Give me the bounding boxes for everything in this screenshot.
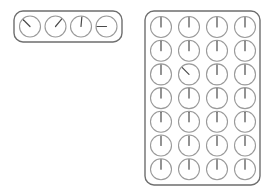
grid-dial-r7c3[interactable]: grid dial r7c3 <box>207 159 228 180</box>
dial-3[interactable]: dial 3 <box>71 16 92 37</box>
grid-dial-r3c4[interactable]: grid dial r3c4 <box>235 64 256 85</box>
grid-dial-r6c1[interactable]: grid dial r6c1 <box>151 135 172 156</box>
grid-dial-r3c1[interactable]: grid dial r3c1 <box>151 64 172 85</box>
grid-dial-r7c4[interactable]: grid dial r7c4 <box>235 159 256 180</box>
grid-dial-r4c1[interactable]: grid dial r4c1 <box>151 88 172 109</box>
dial-grid-panel: grid dial r1c1grid dial r1c2grid dial r1… <box>145 11 260 185</box>
grid-dial-r1c1[interactable]: grid dial r1c1 <box>151 17 172 38</box>
grid-dial-r7c2[interactable]: grid dial r7c2 <box>179 159 200 180</box>
grid-dial-r3c2[interactable]: grid dial r3c2 <box>179 64 200 85</box>
grid-dial-r5c2[interactable]: grid dial r5c2 <box>179 111 200 132</box>
dial-3-hand <box>81 17 82 26</box>
grid-dial-r5c1[interactable]: grid dial r5c1 <box>151 111 172 132</box>
grid-dial-r6c2[interactable]: grid dial r6c2 <box>179 135 200 156</box>
grid-dial-r5c4[interactable]: grid dial r5c4 <box>235 111 256 132</box>
grid-dial-r4c4[interactable]: grid dial r4c4 <box>235 88 256 109</box>
grid-dial-r4c2[interactable]: grid dial r4c2 <box>179 88 200 109</box>
grid-dial-r2c3[interactable]: grid dial r2c3 <box>207 40 228 61</box>
grid-dial-r3c3[interactable]: grid dial r3c3 <box>207 64 228 85</box>
panels-layer: dial 1dial 2dial 3dial 4grid dial r1c1gr… <box>14 11 260 185</box>
grid-dial-r7c1[interactable]: grid dial r7c1 <box>151 159 172 180</box>
grid-dial-r2c1[interactable]: grid dial r2c1 <box>151 40 172 61</box>
grid-dial-r6c3[interactable]: grid dial r6c3 <box>207 135 228 156</box>
grid-dial-r3c2-hand <box>182 68 189 75</box>
grid-dial-r6c4[interactable]: grid dial r6c4 <box>235 135 256 156</box>
grid-dial-r1c3[interactable]: grid dial r1c3 <box>207 17 228 38</box>
dial-4[interactable]: dial 4 <box>96 16 117 37</box>
dial-2[interactable]: dial 2 <box>45 16 66 37</box>
grid-dial-r1c2[interactable]: grid dial r1c2 <box>179 17 200 38</box>
dial-2-hand <box>56 19 62 26</box>
grid-dial-r2c2[interactable]: grid dial r2c2 <box>179 40 200 61</box>
dial-diagram-canvas: dial 1dial 2dial 3dial 4grid dial r1c1gr… <box>0 0 275 196</box>
grid-dial-r5c3[interactable]: grid dial r5c3 <box>207 111 228 132</box>
grid-dial-r4c3[interactable]: grid dial r4c3 <box>207 88 228 109</box>
dial-row-panel: dial 1dial 2dial 3dial 4 <box>14 11 122 42</box>
grid-dial-r1c4[interactable]: grid dial r1c4 <box>235 17 256 38</box>
dial-1[interactable]: dial 1 <box>20 16 41 37</box>
grid-dial-r2c4[interactable]: grid dial r2c4 <box>235 40 256 61</box>
dial-1-hand <box>23 20 30 27</box>
